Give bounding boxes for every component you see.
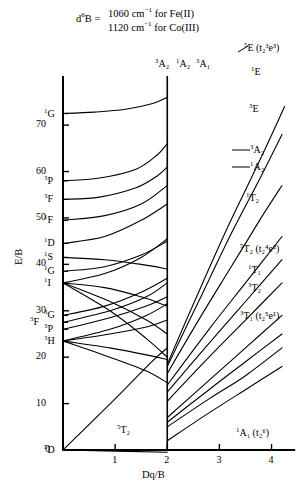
curve-5d-rise [63,348,167,450]
free-ion-term-1F-3: 1F [44,214,53,225]
state-label-1E: 1E [251,66,261,77]
curve-3p-branch [63,144,167,181]
curve-1d-branch [63,204,167,244]
state-label-1A1-ground: 1A₁ (t₂⁶) [236,427,269,438]
free-ion-term-3H-11: 3H [44,335,55,346]
tanabe-sugano-diagram: d6B = 1060 cm−1 for Fe(II) 1120 cm−1 for… [0,0,305,495]
state-label-1T2: 1T₂ [246,192,259,203]
free-ion-term-3G-8: 3G [44,309,55,320]
y-tick-label-20: 20 [36,351,46,361]
curve-1s-branch [63,257,167,269]
curve-1t1 [167,334,282,422]
x-tick-label-4: 4 [269,455,274,465]
curve-5e-t2-3-e-3- [167,107,284,365]
x-tick-label-3: 3 [216,455,221,465]
free-ion-term-1D-4: 1D [44,237,55,248]
free-ion-term-3P-1: 3P [44,175,53,186]
free-ion-term-1G-0: 1G [44,108,55,119]
state-label-3A2-right: 3A₂ [250,144,264,155]
x-tick-label-2: 2 [164,455,169,465]
state-label-1T1: 1T₁ [248,264,261,275]
free-ion-term-3F-9: 3F [30,316,39,327]
state-label-3T2: 3T₂ [248,282,261,293]
free-ion-term-1I-7: 1I [44,277,51,288]
curve-1a2-right [167,260,282,392]
curve-1g-upper [63,97,167,113]
curve-1t2 [167,283,282,401]
state-label-5T2-high: 5T₂ (t₂⁴e²) [240,243,279,254]
state-label-3A2-top: 3A₂ [155,58,169,69]
free-ion-term-1S-5: 1S [44,251,53,262]
curve-3f-branch [63,167,167,200]
x-tick-label-1: 1 [112,455,117,465]
curve-1f-branch [63,186,167,221]
y-tick-label-10: 10 [36,398,46,408]
state-label-5E-high: 5E (t₂³e³) [244,42,279,53]
curve-1g-lower [63,241,167,271]
state-label-1A2-right: 1A₂ [250,161,264,172]
header-prefix: d6B = [76,12,100,24]
header-line-1: 1060 cm−1 for Fe(II) [108,7,194,19]
curve-3t2 [167,348,282,427]
state-label-3E: 3E [249,103,259,114]
state-label-1A2-top: 1A₂ [176,58,190,69]
state-label-3A1-top: 3A₁ [196,58,210,69]
state-label-3T1-high: 3T₁ (t₂⁵e¹) [240,310,279,321]
curve-1i-c [63,283,167,334]
x-axis-title: Dq/B [142,470,165,481]
y-axis-title: E/B [14,249,25,265]
header-line-2: 1120 cm−1 for Co(III) [108,21,199,33]
free-ion-term-5D-12: 5D [44,444,55,455]
state-label-5T2-ground: 5T₂ [117,424,130,435]
free-ion-term-3F-2: 3F [44,193,53,204]
y-tick-label-70: 70 [36,119,46,129]
